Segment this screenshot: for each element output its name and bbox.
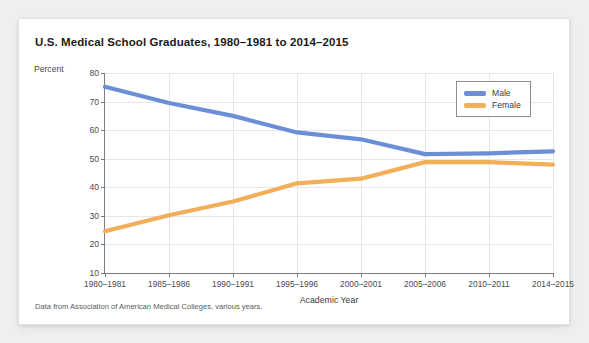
x-tick-label: 1980–1981 — [84, 279, 126, 289]
page-title: U.S. Medical School Graduates, 1980–1981… — [35, 36, 348, 48]
gridline — [553, 73, 554, 273]
x-tick-mark — [233, 273, 234, 277]
x-tick-label: 1990–1991 — [212, 279, 254, 289]
x-tick-mark — [105, 273, 106, 277]
x-tick-label: 2014–2015 — [532, 279, 574, 289]
x-tick-mark — [169, 273, 170, 277]
x-tick-label: 2005–2006 — [404, 279, 446, 289]
y-axis-label: Percent — [34, 64, 64, 74]
x-tick-mark — [553, 273, 554, 277]
x-tick-label: 1985–1986 — [148, 279, 190, 289]
x-tick-mark — [489, 273, 490, 277]
y-tick-label: 40 — [89, 182, 99, 192]
y-tick-label: 60 — [89, 125, 99, 135]
y-tick-label: 10 — [89, 268, 99, 278]
y-tick-label: 20 — [89, 239, 99, 249]
x-axis-line — [104, 273, 554, 274]
legend-label-male: Male — [492, 88, 511, 98]
source-note: Data from Association of American Medica… — [35, 302, 263, 311]
legend: Male Female — [456, 81, 531, 117]
x-tick-label: 1995–1996 — [276, 279, 318, 289]
y-tick-label: 50 — [89, 154, 99, 164]
line-female — [105, 162, 553, 231]
x-tick-label: 2000–2001 — [340, 279, 382, 289]
x-tick-mark — [361, 273, 362, 277]
x-tick-mark — [297, 273, 298, 277]
y-tick-label: 30 — [89, 211, 99, 221]
legend-item-male: Male — [464, 87, 521, 99]
figure-card: U.S. Medical School Graduates, 1980–1981… — [18, 18, 570, 325]
x-tick-label: 2010–2011 — [468, 279, 509, 289]
page-background: U.S. Medical School Graduates, 1980–1981… — [0, 0, 589, 343]
legend-item-female: Female — [464, 99, 521, 111]
legend-swatch-male — [464, 91, 486, 96]
x-tick-mark — [425, 273, 426, 277]
plot-area: 8070605040302010 1980–19811985–19861990–… — [105, 73, 553, 273]
y-tick-label: 70 — [89, 97, 99, 107]
y-tick-label: 80 — [89, 68, 99, 78]
legend-swatch-female — [464, 103, 486, 108]
legend-label-female: Female — [492, 100, 521, 110]
